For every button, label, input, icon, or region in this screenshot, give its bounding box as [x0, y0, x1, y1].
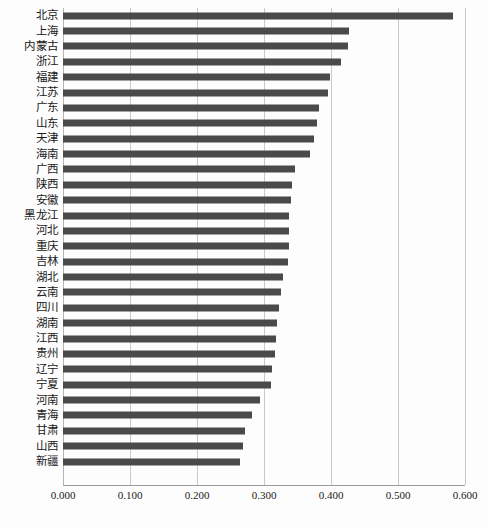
bar-山东 [63, 120, 317, 127]
category-label-广西: 广西 [0, 163, 58, 176]
bar-row: 新疆 [0, 454, 489, 469]
bar-row: 海南 [0, 146, 489, 161]
bar-山西 [63, 443, 243, 450]
category-label-广东: 广东 [0, 101, 58, 114]
bar-row: 内蒙古 [0, 39, 489, 54]
bar-天津 [63, 135, 314, 142]
category-label-河南: 河南 [0, 394, 58, 407]
bar-row: 宁夏 [0, 377, 489, 392]
category-label-山东: 山东 [0, 117, 58, 130]
bar-江苏 [63, 89, 328, 96]
category-label-吉林: 吉林 [0, 255, 58, 268]
bar-row: 浙江 [0, 54, 489, 69]
bar-云南 [63, 289, 281, 296]
bar-湖南 [63, 320, 277, 327]
bar-row: 江苏 [0, 85, 489, 100]
bar-row: 陕西 [0, 177, 489, 192]
category-label-江西: 江西 [0, 332, 58, 345]
bar-track [63, 316, 465, 331]
bar-row: 青海 [0, 408, 489, 423]
bar-北京 [63, 12, 453, 19]
bar-重庆 [63, 243, 289, 250]
category-label-湖南: 湖南 [0, 317, 58, 330]
bar-track [63, 8, 465, 23]
bar-新疆 [63, 458, 240, 465]
bar-track [63, 162, 465, 177]
bar-track [63, 54, 465, 69]
category-label-天津: 天津 [0, 132, 58, 145]
category-label-云南: 云南 [0, 286, 58, 299]
category-label-黑龙江: 黑龙江 [0, 209, 58, 222]
bar-row: 天津 [0, 131, 489, 146]
bar-row: 福建 [0, 70, 489, 85]
bar-track [63, 193, 465, 208]
bar-track [63, 439, 465, 454]
bar-track [63, 223, 465, 238]
bar-青海 [63, 412, 252, 419]
bar-宁夏 [63, 381, 271, 388]
bar-row: 甘肃 [0, 423, 489, 438]
category-label-海南: 海南 [0, 148, 58, 161]
bar-track [63, 285, 465, 300]
bar-row: 云南 [0, 285, 489, 300]
category-label-内蒙古: 内蒙古 [0, 40, 58, 53]
bar-安徽 [63, 197, 291, 204]
bar-陕西 [63, 181, 292, 188]
category-label-辽宁: 辽宁 [0, 363, 58, 376]
category-label-安徽: 安徽 [0, 194, 58, 207]
bar-rows: 北京上海内蒙古浙江福建江苏广东山东天津海南广西陕西安徽黑龙江河北重庆吉林湖北云南… [0, 8, 489, 485]
category-label-宁夏: 宁夏 [0, 378, 58, 391]
bar-河北 [63, 227, 289, 234]
x-tick-0.500: 0.500 [386, 489, 411, 501]
bar-黑龙江 [63, 212, 289, 219]
bar-track [63, 70, 465, 85]
category-label-甘肃: 甘肃 [0, 424, 58, 437]
bar-row: 吉林 [0, 254, 489, 269]
bar-浙江 [63, 58, 341, 65]
category-label-新疆: 新疆 [0, 455, 58, 468]
x-tick-0.600: 0.600 [453, 489, 478, 501]
bar-track [63, 377, 465, 392]
bar-甘肃 [63, 427, 245, 434]
bar-row: 江西 [0, 331, 489, 346]
bar-row: 河南 [0, 392, 489, 407]
x-tick-0.200: 0.200 [185, 489, 210, 501]
bar-track [63, 239, 465, 254]
bar-track [63, 300, 465, 315]
bar-吉林 [63, 258, 288, 265]
bar-row: 贵州 [0, 346, 489, 361]
bar-track [63, 408, 465, 423]
category-label-四川: 四川 [0, 301, 58, 314]
x-axis-tick-labels: 0.0000.1000.2000.3000.4000.5000.600 [0, 489, 489, 509]
category-label-北京: 北京 [0, 9, 58, 22]
bar-广东 [63, 104, 319, 111]
bar-track [63, 331, 465, 346]
bar-track [63, 39, 465, 54]
plot-area: 北京上海内蒙古浙江福建江苏广东山东天津海南广西陕西安徽黑龙江河北重庆吉林湖北云南… [0, 0, 489, 492]
bar-四川 [63, 304, 279, 311]
bar-track [63, 23, 465, 38]
bar-track [63, 208, 465, 223]
bar-广西 [63, 166, 295, 173]
bar-row: 广西 [0, 162, 489, 177]
bar-row: 湖南 [0, 316, 489, 331]
bar-row: 辽宁 [0, 362, 489, 377]
bar-track [63, 254, 465, 269]
bar-上海 [63, 28, 349, 35]
bar-河南 [63, 397, 260, 404]
category-label-湖北: 湖北 [0, 271, 58, 284]
category-label-浙江: 浙江 [0, 55, 58, 68]
bar-row: 黑龙江 [0, 208, 489, 223]
category-label-河北: 河北 [0, 224, 58, 237]
category-label-重庆: 重庆 [0, 240, 58, 253]
category-label-山西: 山西 [0, 440, 58, 453]
bar-track [63, 85, 465, 100]
bar-row: 河北 [0, 223, 489, 238]
bar-track [63, 454, 465, 469]
bar-辽宁 [63, 366, 272, 373]
bar-track [63, 146, 465, 161]
bar-track [63, 116, 465, 131]
bar-海南 [63, 151, 310, 158]
category-label-上海: 上海 [0, 25, 58, 38]
bar-row: 北京 [0, 8, 489, 23]
